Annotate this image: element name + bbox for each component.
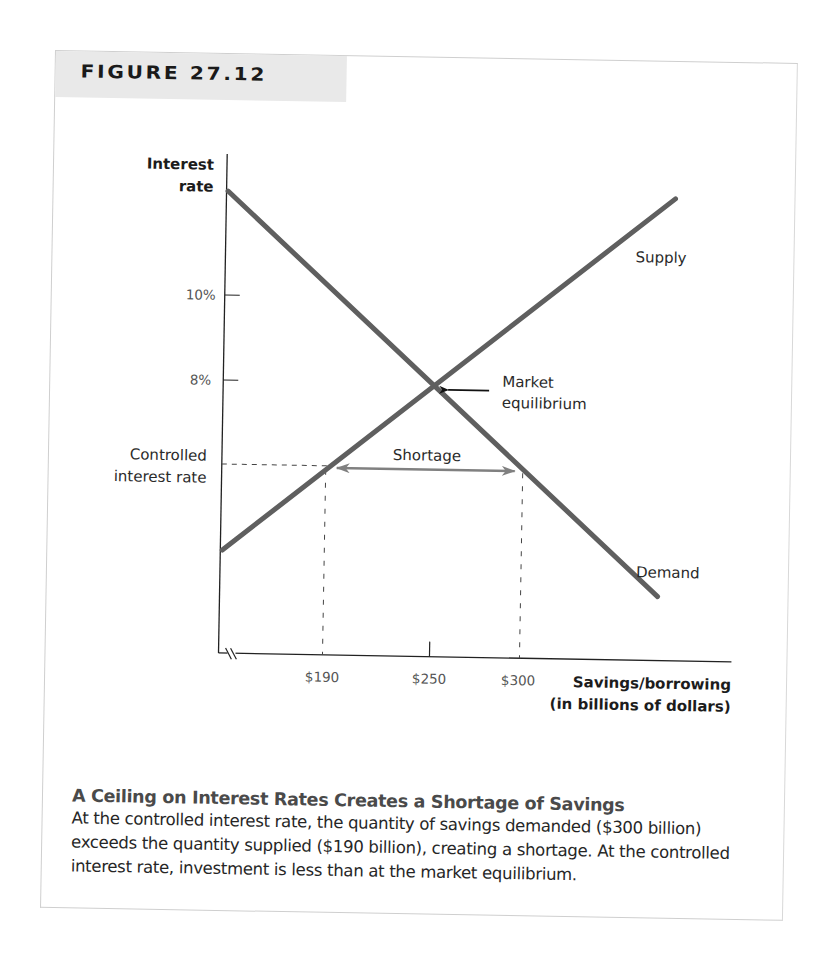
demand-label: Demand xyxy=(636,563,700,582)
controlled-rate-guide xyxy=(222,464,327,466)
figure-caption: A Ceiling on Interest Rates Creates a Sh… xyxy=(71,784,753,890)
market-equilibrium-label-line2: equilibrium xyxy=(502,394,587,413)
equilibrium-pointer-arrow xyxy=(448,390,489,391)
supply-curve xyxy=(222,191,675,558)
market-equilibrium-label-line1: Market xyxy=(502,373,554,392)
x-tick-label-250: $250 xyxy=(412,670,447,687)
controlled-rate-label-line1: Controlled xyxy=(130,445,207,464)
controlled-rate-label-line2: interest rate xyxy=(114,467,207,487)
figure-frame: FIGURE 27.12 xyxy=(40,50,798,921)
demand-curve xyxy=(221,191,664,597)
x-axis-title-line1: Savings/borrowing xyxy=(573,673,732,694)
y-axis-title-line2: rate xyxy=(179,177,214,196)
x-tick-label-300: $300 xyxy=(501,672,536,689)
caption-body: At the controlled interest rate, the qua… xyxy=(71,806,752,890)
x-tick-label-190: $190 xyxy=(305,668,340,685)
shortage-arrow xyxy=(337,468,515,471)
y-axis-title-line1: Interest xyxy=(147,155,215,174)
chart: Interest rate Savings/borrowing (in bill… xyxy=(43,51,798,784)
y-tick-label-8: 8% xyxy=(190,371,212,387)
shortage-label: Shortage xyxy=(393,446,462,465)
y-axis xyxy=(219,154,228,653)
x-axis-title-line2: (in billions of dollars) xyxy=(549,695,730,716)
guide-300 xyxy=(519,473,522,658)
supply-label: Supply xyxy=(635,248,687,267)
y-tick-label-10: 10% xyxy=(186,286,216,303)
x-axis xyxy=(219,653,732,662)
guide-190 xyxy=(322,470,325,655)
